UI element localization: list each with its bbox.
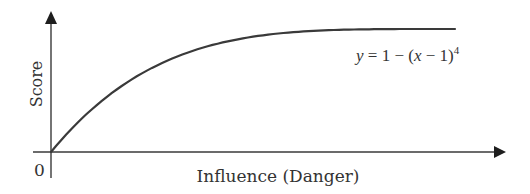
eq-y: y — [354, 46, 364, 65]
x-axis-label: Influence (Danger) — [197, 166, 360, 186]
chart-canvas: 0 Score Influence (Danger) y = 1 − (x − … — [0, 0, 530, 194]
origin-label: 0 — [34, 160, 45, 180]
y-axis-label: Score — [27, 61, 46, 108]
y-axis-arrow-icon — [45, 11, 57, 24]
x-axis-arrow-icon — [494, 146, 506, 158]
eq-exponent: 4 — [454, 44, 460, 56]
eq-part2: − 1) — [421, 46, 453, 65]
eq-part1: = 1 − ( — [364, 46, 415, 65]
equation-annotation: y = 1 − (x − 1)4 — [354, 44, 460, 65]
